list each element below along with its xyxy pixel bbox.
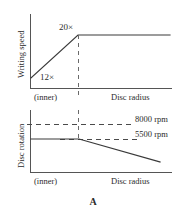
start-speed-label: 12× bbox=[40, 72, 54, 82]
bottom-panel-disc-rotation: 8000 rpm 5500 rpm Disc rotation (inner) … bbox=[16, 110, 172, 186]
figure-caption: A bbox=[89, 196, 97, 207]
rpm-low-label: 5500 rpm bbox=[135, 129, 168, 139]
top-panel-x-outer-label: Disc radius bbox=[111, 92, 149, 102]
top-panel-y-axis-label: Writing speed bbox=[16, 30, 26, 78]
bottom-panel-x-outer-label: Disc radius bbox=[111, 176, 149, 186]
figure-canvas: 20× 12× Writing speed (inner) Disc radiu… bbox=[0, 0, 186, 216]
disc-rotation-curve bbox=[31, 139, 160, 162]
bottom-panel-x-inner-label: (inner) bbox=[34, 176, 57, 186]
bottom-panel-y-axis-label: Disc rotation bbox=[16, 123, 26, 168]
disc-speed-figure: 20× 12× Writing speed (inner) Disc radiu… bbox=[0, 0, 186, 216]
top-panel-writing-speed: 20× 12× Writing speed (inner) Disc radiu… bbox=[16, 14, 172, 102]
rpm-high-label: 8000 rpm bbox=[135, 114, 168, 124]
plateau-speed-label: 20× bbox=[59, 22, 73, 32]
top-panel-x-inner-label: (inner) bbox=[34, 92, 57, 102]
